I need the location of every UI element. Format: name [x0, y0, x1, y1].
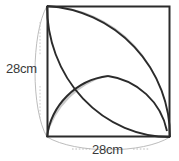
height-dimension-label: 28cm — [6, 62, 37, 75]
quarter-arc-bottom-right-centre — [47, 6, 170, 137]
semicircle-arc — [47, 76, 108, 137]
shaded-lower-left-lens — [47, 76, 108, 137]
width-dimension-label: 28cm — [92, 143, 123, 156]
arc-outlines — [47, 6, 170, 137]
dimension-lines — [35, 6, 170, 150]
geometry-diagram — [0, 0, 179, 161]
geometry-figure: 28cm 28cm — [0, 0, 179, 161]
